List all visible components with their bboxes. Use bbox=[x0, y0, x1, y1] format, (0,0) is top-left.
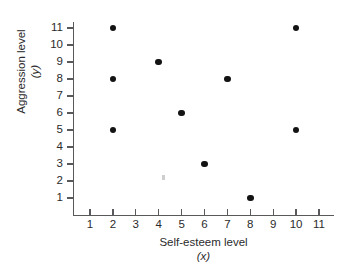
x-axis-tick-label: 6 bbox=[194, 219, 216, 231]
y-axis-tick-label: 5 bbox=[41, 124, 63, 136]
x-axis-tick-label: 1 bbox=[79, 219, 101, 231]
y-axis-tick bbox=[67, 163, 73, 164]
data-point bbox=[224, 76, 231, 83]
x-axis-tick-label: 4 bbox=[148, 219, 170, 231]
y-axis-variable-label: (y) bbox=[28, 0, 42, 152]
y-axis-tick-label: 10 bbox=[41, 39, 63, 51]
y-axis-title-text: Aggression level bbox=[15, 29, 27, 113]
y-axis-tick-label: 1 bbox=[41, 192, 63, 204]
data-point bbox=[110, 25, 117, 32]
x-axis-tick bbox=[181, 209, 182, 215]
data-point bbox=[293, 127, 300, 134]
x-axis-tick-label: 2 bbox=[102, 219, 124, 231]
data-point bbox=[293, 25, 300, 32]
y-axis-tick-label: 9 bbox=[41, 56, 63, 68]
data-point bbox=[155, 59, 162, 66]
data-point bbox=[201, 161, 208, 168]
y-axis-tick bbox=[67, 129, 73, 130]
data-point bbox=[110, 76, 117, 83]
faint-gray-speck bbox=[162, 175, 165, 179]
y-axis-tick-label: 2 bbox=[41, 175, 63, 187]
y-axis-tick-label: 4 bbox=[41, 141, 63, 153]
x-axis-tick-label: 5 bbox=[171, 219, 193, 231]
x-axis-title: Self-esteem level (x) bbox=[73, 235, 334, 263]
y-axis-tick bbox=[67, 95, 73, 96]
y-axis-tick bbox=[67, 27, 73, 28]
y-axis-tick bbox=[67, 197, 73, 198]
scatter-plot-figure: 1234567891011 1234567891011 Self-esteem … bbox=[0, 0, 357, 273]
x-axis-tick-label: 11 bbox=[308, 219, 330, 231]
y-axis-tick bbox=[67, 112, 73, 113]
data-point bbox=[178, 110, 185, 117]
y-axis-line bbox=[73, 22, 74, 215]
x-axis-tick-label: 3 bbox=[125, 219, 147, 231]
x-axis-tick bbox=[318, 209, 319, 215]
x-axis-tick-label: 8 bbox=[239, 219, 261, 231]
x-axis-tick-label: 9 bbox=[262, 219, 284, 231]
x-axis-tick bbox=[135, 209, 136, 215]
y-axis-tick bbox=[67, 44, 73, 45]
data-point bbox=[247, 195, 254, 202]
x-axis-tick bbox=[250, 209, 251, 215]
x-axis-tick bbox=[227, 209, 228, 215]
y-axis-tick-label: 6 bbox=[41, 107, 63, 119]
y-axis-tick bbox=[67, 78, 73, 79]
x-axis-title-text: Self-esteem level bbox=[159, 236, 247, 248]
y-axis-tick bbox=[67, 180, 73, 181]
x-axis-variable-label: (x) bbox=[73, 249, 334, 263]
y-axis-tick bbox=[67, 61, 73, 62]
x-axis-tick bbox=[158, 209, 159, 215]
y-axis-title: Aggression level (y) bbox=[15, 0, 42, 152]
x-axis-tick bbox=[89, 209, 90, 215]
data-point bbox=[110, 127, 117, 134]
x-axis-tick bbox=[295, 209, 296, 215]
y-axis-tick-label: 7 bbox=[41, 90, 63, 102]
x-axis-tick bbox=[204, 209, 205, 215]
x-axis-tick-label: 10 bbox=[285, 219, 307, 231]
x-axis-tick bbox=[112, 209, 113, 215]
x-axis-tick-label: 7 bbox=[216, 219, 238, 231]
y-axis-tick-label: 3 bbox=[41, 158, 63, 170]
y-axis-tick-label: 8 bbox=[41, 73, 63, 85]
x-axis-tick bbox=[273, 209, 274, 215]
y-axis-tick bbox=[67, 146, 73, 147]
y-axis-tick-label: 11 bbox=[41, 22, 63, 34]
